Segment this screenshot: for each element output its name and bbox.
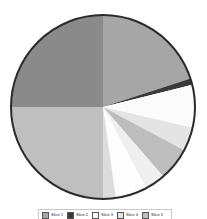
- legend-label: Slice 2: [76, 213, 88, 217]
- legend-entry[interactable]: Slice 3: [92, 212, 113, 219]
- pie-slice[interactable]: [11, 107, 103, 199]
- legend-entry[interactable]: Slice 5: [142, 212, 163, 219]
- legend-entry[interactable]: Slice 2: [67, 212, 88, 219]
- legend-label: Slice 3: [101, 213, 113, 217]
- legend-label: Slice 1: [51, 213, 63, 217]
- legend-swatch: [92, 212, 99, 219]
- legend-entry[interactable]: Slice 1: [42, 212, 63, 219]
- chart-figure: Slice 1Slice 2Slice 3Slice 4Slice 5: [0, 0, 207, 219]
- legend-swatch: [117, 212, 124, 219]
- pie-slice[interactable]: [11, 15, 103, 107]
- legend-swatch: [42, 212, 49, 219]
- legend-swatch: [67, 212, 74, 219]
- legend-entry[interactable]: Slice 4: [117, 212, 138, 219]
- legend-entry-list: Slice 1Slice 2Slice 3Slice 4Slice 5: [39, 210, 171, 219]
- legend-swatch: [142, 212, 149, 219]
- pie-svg: [0, 0, 207, 200]
- chart-legend: Slice 1Slice 2Slice 3Slice 4Slice 5: [38, 209, 172, 219]
- legend-label: Slice 4: [126, 213, 138, 217]
- pie-chart: [0, 0, 207, 200]
- legend-label: Slice 5: [151, 213, 163, 217]
